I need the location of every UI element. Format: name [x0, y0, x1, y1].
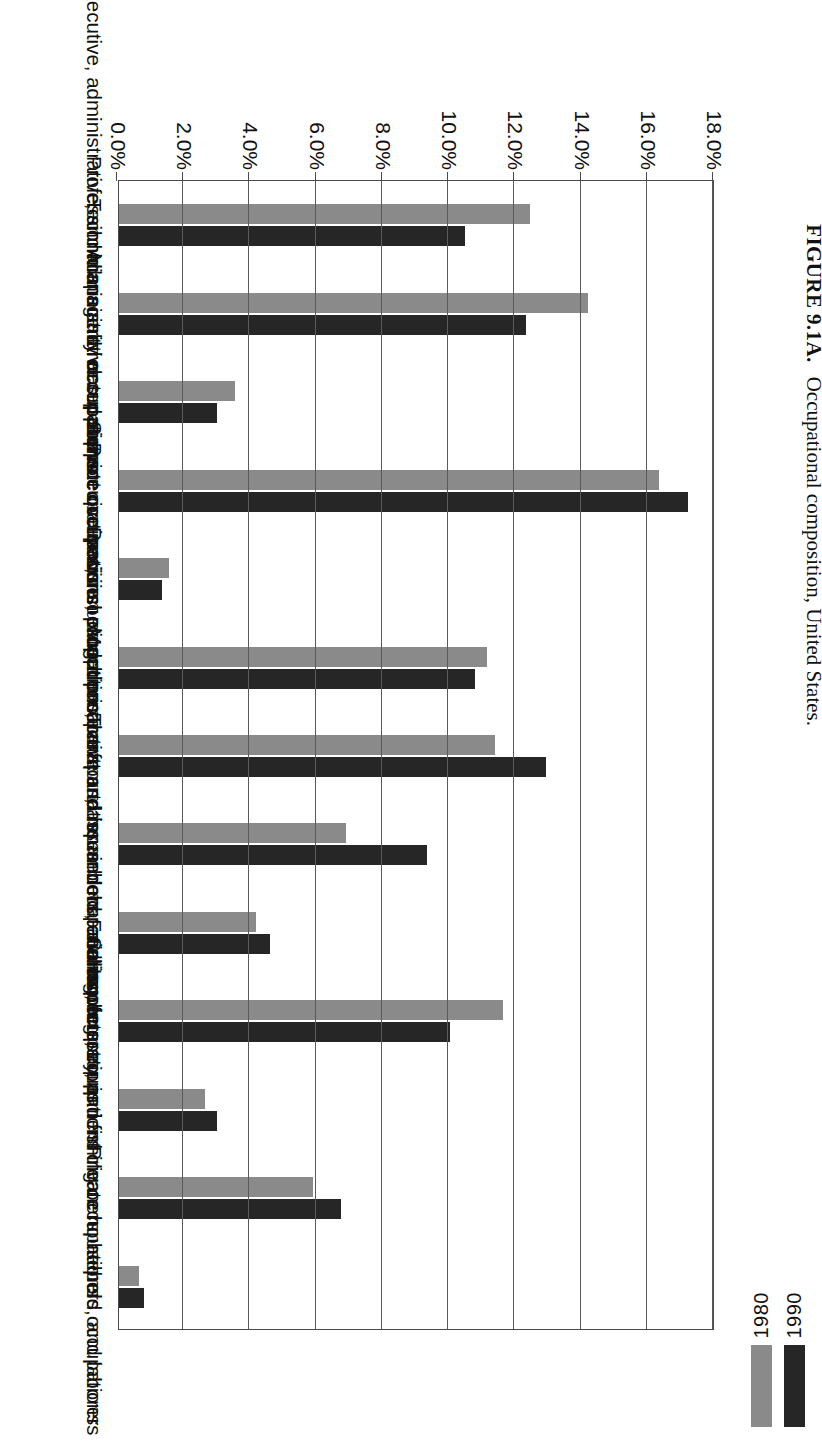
- y-axis-tick-label: 6.0%: [305, 122, 329, 170]
- gridline: [381, 181, 382, 1329]
- gridline: [447, 181, 448, 1329]
- bar-group: [119, 534, 713, 622]
- bar-group: [119, 800, 713, 888]
- gridline: [712, 181, 713, 1329]
- bar-1990: [119, 314, 526, 334]
- y-axis-tick-labels: 0.0%2.0%4.0%6.0%8.0%10.0%12.0%14.0%16.0%…: [96, 88, 736, 180]
- gridline: [646, 181, 647, 1329]
- bar-1980: [119, 911, 256, 931]
- legend-item-1990: 1990: [783, 1292, 806, 1428]
- legend-swatch-1990: [784, 1345, 805, 1427]
- category-label: Private household occupations: [83, 1146, 106, 1425]
- bar-group: [119, 1154, 713, 1242]
- legend-label-1980: 1980: [750, 1292, 773, 1339]
- figure-number: FIGURE 9.1A.: [803, 224, 822, 362]
- bar-1980: [119, 1177, 313, 1197]
- bar-group: [119, 623, 713, 711]
- gridline: [182, 181, 183, 1329]
- legend-swatch-1980: [751, 1345, 772, 1427]
- category-axis-labels: Executive, administrative, and manageria…: [0, 180, 112, 1330]
- chart-legend: 1980 1990: [750, 1292, 806, 1428]
- bar-1990: [119, 226, 465, 246]
- axis-tick: [712, 172, 713, 181]
- bar-1980: [119, 823, 346, 843]
- axis-tick: [447, 172, 448, 181]
- rotated-figure-stage: 0.0%2.0%4.0%6.0%8.0%10.0%12.0%14.0%16.0%…: [0, 88, 736, 1348]
- bar-1980: [119, 646, 487, 666]
- gridline: [513, 181, 514, 1329]
- bar-group: [119, 181, 713, 269]
- bar-1980: [119, 469, 659, 489]
- axis-tick: [381, 172, 382, 181]
- y-axis-tick-label: 18.0%: [702, 110, 726, 170]
- bar-1990: [119, 668, 475, 688]
- bar-1990: [119, 1199, 341, 1219]
- bar-1990: [119, 1022, 450, 1042]
- bar-1990: [119, 403, 217, 423]
- bar-1990: [119, 580, 162, 600]
- y-axis-tick-label: 8.0%: [371, 122, 395, 170]
- y-axis-tick-label: 10.0%: [437, 110, 461, 170]
- gridline: [248, 181, 249, 1329]
- y-axis-tick-label: 12.0%: [503, 110, 527, 170]
- bar-1990: [119, 933, 270, 953]
- legend-item-1980: 1980: [750, 1292, 773, 1428]
- bar-1990: [119, 1110, 217, 1130]
- bar-group: [119, 1065, 713, 1153]
- axis-tick: [513, 172, 514, 181]
- axis-tick: [315, 172, 316, 181]
- axis-tick: [116, 172, 117, 181]
- bar-group: [119, 1242, 713, 1330]
- bar-group: [119, 446, 713, 534]
- axis-tick: [580, 172, 581, 181]
- bar-series-container: [119, 181, 713, 1329]
- axis-tick: [182, 172, 183, 181]
- bar-1980: [119, 558, 169, 578]
- bar-1980: [119, 292, 588, 312]
- figure-caption: FIGURE 9.1A.Occupational composition, Un…: [802, 224, 822, 726]
- axis-tick: [646, 172, 647, 181]
- y-axis-tick-label: 16.0%: [636, 110, 660, 170]
- axis-tick: [248, 172, 249, 181]
- y-axis-tick-label: 14.0%: [570, 110, 594, 170]
- legend-label-1990: 1990: [783, 1292, 806, 1339]
- y-axis-tick-label: 2.0%: [172, 122, 196, 170]
- bar-1990: [119, 491, 689, 511]
- bar-1990: [119, 1287, 144, 1307]
- gridline: [315, 181, 316, 1329]
- bar-1980: [119, 381, 235, 401]
- bar-1980: [119, 1088, 205, 1108]
- plot-area: [118, 180, 714, 1330]
- gridline: [580, 181, 581, 1329]
- figure-caption-text: Occupational composition, United States.: [803, 376, 822, 725]
- bar-1980: [119, 1265, 139, 1285]
- bar-group: [119, 357, 713, 445]
- bar-1980: [119, 734, 495, 754]
- bar-group: [119, 888, 713, 976]
- bar-group: [119, 269, 713, 357]
- bar-1980: [119, 204, 530, 224]
- bar-group: [119, 711, 713, 799]
- bar-chart: 0.0%2.0%4.0%6.0%8.0%10.0%12.0%14.0%16.0%…: [0, 88, 736, 1348]
- y-axis-tick-label: 4.0%: [238, 122, 262, 170]
- bar-1980: [119, 1000, 503, 1020]
- y-axis-tick-label: 0.0%: [106, 122, 130, 170]
- bar-group: [119, 977, 713, 1065]
